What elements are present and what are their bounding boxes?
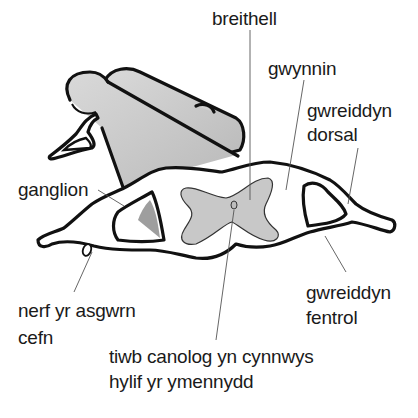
label-breithell: breithell bbox=[212, 6, 277, 31]
label-gwynnin: gwynnin bbox=[268, 56, 336, 81]
cross-section bbox=[38, 162, 395, 258]
label-gwreiddyn-dorsal-line1: gwreiddyn bbox=[307, 98, 392, 123]
label-gwreiddyn-fentrol-line1: gwreiddyn bbox=[306, 280, 391, 305]
label-gwreiddyn-dorsal-line2: dorsal bbox=[307, 122, 358, 147]
rear-left-nerve bbox=[49, 114, 98, 159]
label-tiwb-line1: tiwb canolog yn cynnwys bbox=[109, 344, 314, 369]
label-nerf-line1: nerf yr asgwrn bbox=[18, 298, 136, 323]
central-canal bbox=[231, 201, 237, 209]
label-nerf-line2: cefn bbox=[18, 325, 53, 350]
label-ganglion: ganglion bbox=[18, 177, 88, 202]
label-gwreiddyn-fentrol-line2: fentrol bbox=[306, 305, 357, 330]
label-tiwb-line2: hylif yr ymennydd bbox=[109, 369, 253, 394]
